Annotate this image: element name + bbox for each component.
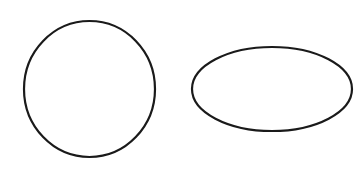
shapes-svg [0, 0, 362, 180]
circle-shape [24, 21, 155, 157]
diagram-canvas [0, 0, 362, 180]
ellipse-shape [192, 47, 352, 131]
